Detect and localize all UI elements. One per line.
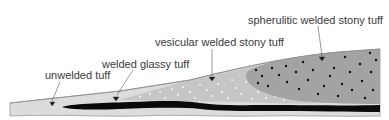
label-welded-glassy-tuff: welded glassy tuff [101,58,190,70]
tuff-cross-section-diagram: unwelded tuff welded glassy tuff vesicul… [0,0,389,120]
label-unwelded-tuff: unwelded tuff [45,69,111,81]
spherulitic-leader-line [318,26,322,56]
label-spherulitic-welded-stony-tuff: spherulitic welded stony tuff [248,14,384,26]
label-vesicular-welded-stony-tuff: vesicular welded stony tuff [155,36,285,48]
